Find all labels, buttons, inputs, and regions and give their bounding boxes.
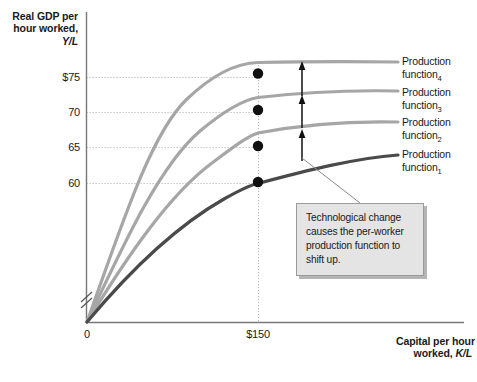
curve-label-1-fn: function1 bbox=[402, 161, 476, 174]
figure-production-function-shift: Real GDP per hour worked, Y/L $75 70 65 … bbox=[0, 0, 477, 382]
curve-label-2-fn-text: function bbox=[402, 129, 438, 141]
x-axis-title-symbol: K/L bbox=[455, 347, 472, 359]
shift-arrow-1-to-2 bbox=[299, 129, 306, 161]
curve-label-2-sub: 2 bbox=[438, 135, 442, 144]
callout-annotation: Technological change causes the per-work… bbox=[296, 203, 424, 276]
curve-label-4-sub: 4 bbox=[438, 74, 442, 83]
curve-label-production-function-2: Production function2 bbox=[402, 116, 476, 142]
curve-label-3-word: Production bbox=[402, 86, 476, 99]
y-tick-label-65: 65 bbox=[32, 141, 80, 153]
y-tick-label-75: $75 bbox=[32, 71, 80, 83]
curve-label-4-word: Production bbox=[402, 55, 476, 68]
x-axis-title-line2: worked, K/L bbox=[396, 347, 472, 359]
curve-label-3-fn: function3 bbox=[402, 99, 476, 112]
shift-arrow-2-to-3 bbox=[299, 95, 306, 128]
curve-label-production-function-4: Production function4 bbox=[402, 55, 476, 81]
data-point-pf1-60 bbox=[253, 177, 263, 187]
data-point-pf3-70 bbox=[253, 105, 263, 115]
curve-label-2-fn: function2 bbox=[402, 129, 476, 142]
x-axis-title: Capital per hour worked, K/L bbox=[396, 335, 472, 360]
curve-label-1-word: Production bbox=[402, 148, 476, 161]
y-tick-label-60: 60 bbox=[32, 177, 80, 189]
curve-label-production-function-1: Production function1 bbox=[402, 148, 476, 174]
curve-label-3-sub: 3 bbox=[438, 105, 442, 114]
curve-label-production-function-3: Production function3 bbox=[402, 86, 476, 112]
shift-arrow-3-to-4 bbox=[299, 61, 306, 96]
x-tick-label-origin: 0 bbox=[57, 328, 117, 340]
x-tick-label-150: $150 bbox=[228, 328, 288, 340]
curve-label-3-fn-text: function bbox=[402, 99, 438, 111]
x-axis-title-prefix: worked, bbox=[414, 347, 456, 359]
data-point-pf2-65 bbox=[253, 141, 263, 151]
curve-label-1-fn-text: function bbox=[402, 161, 438, 173]
y-axis-title: Real GDP per hour worked, Y/L bbox=[8, 10, 78, 47]
y-tick-label-70: 70 bbox=[32, 106, 80, 118]
callout-text: Technological change causes the per-work… bbox=[306, 212, 404, 265]
gridlines-horizontal bbox=[87, 78, 263, 184]
x-axis-title-line1: Capital per hour bbox=[396, 335, 472, 347]
curve-label-4-fn: function4 bbox=[402, 68, 476, 81]
y-axis-title-line3: Y/L bbox=[8, 35, 78, 47]
y-axis-title-line1: Real GDP per bbox=[8, 10, 78, 22]
data-point-pf4-75 bbox=[253, 68, 263, 78]
shift-arrows bbox=[299, 61, 306, 161]
curve-label-2-word: Production bbox=[402, 116, 476, 129]
y-axis-title-line2: hour worked, bbox=[8, 22, 78, 34]
curve-label-1-sub: 1 bbox=[438, 167, 442, 176]
curve-label-4-fn-text: function bbox=[402, 68, 438, 80]
